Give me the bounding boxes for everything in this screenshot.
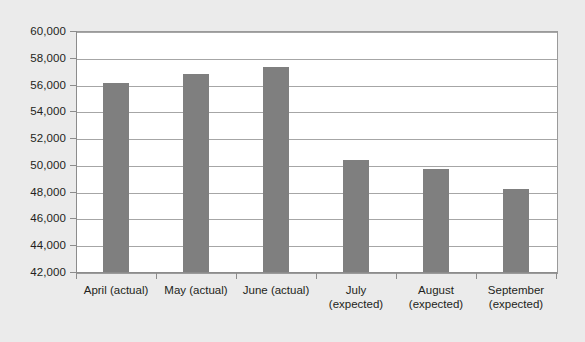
x-axis-category-label: June (actual) — [236, 283, 316, 297]
gridline — [77, 86, 557, 87]
bar-chart: 60,00058,00056,00054,00052,00050,00048,0… — [0, 0, 585, 342]
y-axis-tick-label: 56,000 — [30, 79, 66, 91]
gridline — [77, 246, 557, 247]
y-axis-tick-mark — [70, 31, 76, 32]
bar — [183, 74, 209, 272]
bar — [103, 83, 129, 272]
y-axis-tick-label: 52,000 — [30, 132, 66, 144]
x-axis-tick-mark — [316, 273, 317, 279]
x-axis-category-label: September (expected) — [476, 283, 556, 311]
gridline — [77, 139, 557, 140]
x-axis-tick-mark — [476, 273, 477, 279]
y-axis-tick-label: 42,000 — [30, 266, 66, 278]
y-axis-tick-mark — [70, 218, 76, 219]
y-axis-tick-mark — [70, 58, 76, 59]
y-axis-tick-labels: 60,00058,00056,00054,00052,00050,00048,0… — [0, 0, 66, 342]
x-axis-tick-mark — [396, 273, 397, 279]
x-axis-category-label: August (expected) — [396, 283, 476, 311]
gridline — [77, 193, 557, 194]
y-axis-tick-label: 44,000 — [30, 239, 66, 251]
bar — [263, 67, 289, 272]
y-axis-tick-label: 58,000 — [30, 52, 66, 64]
y-axis-tick-label: 50,000 — [30, 159, 66, 171]
y-axis-tick-mark — [70, 192, 76, 193]
plot-area — [76, 31, 558, 274]
y-axis-tick-mark — [70, 165, 76, 166]
y-axis-tick-mark — [70, 111, 76, 112]
x-axis-tick-mark — [76, 273, 77, 279]
x-axis-category-label: April (actual) — [76, 283, 156, 297]
gridline — [77, 112, 557, 113]
x-axis-tick-mark — [236, 273, 237, 279]
gridline — [77, 59, 557, 60]
gridline — [77, 219, 557, 220]
y-axis-tick-label: 46,000 — [30, 212, 66, 224]
y-axis-tick-label: 48,000 — [30, 186, 66, 198]
y-axis-tick-mark — [70, 138, 76, 139]
bar — [503, 189, 529, 272]
y-axis-tick-mark — [70, 85, 76, 86]
y-axis-tick-label: 60,000 — [30, 25, 66, 37]
y-axis-tick-mark — [70, 245, 76, 246]
bar — [343, 160, 369, 272]
x-axis-category-label: July (expected) — [316, 283, 396, 311]
x-axis-tick-mark — [556, 273, 557, 279]
bar — [423, 169, 449, 272]
y-axis-line — [76, 31, 77, 273]
x-axis-category-label: May (actual) — [156, 283, 236, 297]
y-axis-tick-label: 54,000 — [30, 105, 66, 117]
gridline — [77, 32, 557, 33]
x-axis-tick-mark — [156, 273, 157, 279]
gridline — [77, 166, 557, 167]
